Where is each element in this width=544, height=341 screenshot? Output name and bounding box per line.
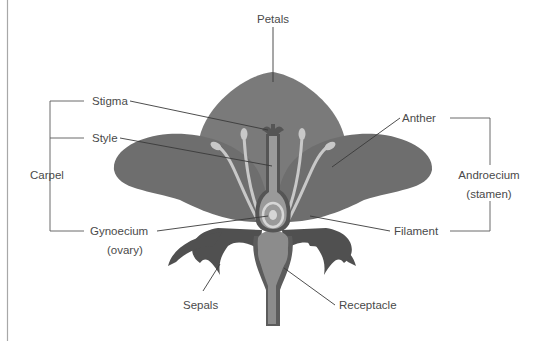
label-gynoecium: Gynoecium (90, 225, 148, 237)
label-filament: Filament (394, 225, 439, 237)
label-receptacle: Receptacle (339, 299, 397, 311)
label-carpel: Carpel (30, 169, 64, 181)
label-petals: Petals (257, 13, 289, 25)
label-stigma: Stigma (92, 95, 128, 107)
label-androecium-sub: (stamen) (466, 188, 512, 200)
flower-anatomy-diagram: Petals Stigma Style Carpel Gynoecium (ov… (0, 0, 544, 341)
receptacle-shape (253, 231, 293, 327)
ovule (269, 210, 277, 220)
label-anther: Anther (402, 112, 436, 124)
carpel-bracket (50, 101, 84, 231)
label-style: Style (92, 132, 118, 144)
label-androecium: Androecium (458, 169, 519, 181)
label-gynoecium-sub: (ovary) (107, 244, 143, 256)
label-sepals: Sepals (183, 299, 218, 311)
